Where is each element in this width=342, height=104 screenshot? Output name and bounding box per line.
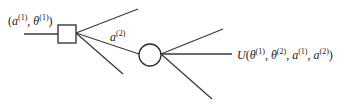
- utility-label: U(θ(1), θ(2), a(1), a(2)): [237, 48, 333, 61]
- var-U: U: [237, 48, 246, 62]
- decision-branch-upper: [76, 9, 138, 33]
- chance-node-circle: [139, 44, 161, 66]
- decision-branch-a2: [76, 33, 139, 54]
- input-label: (a(1), θ(1)): [8, 14, 53, 27]
- chance-branch-upper: [161, 29, 223, 54]
- decision-node-square: [58, 25, 76, 43]
- chance-branch-lower: [161, 54, 212, 99]
- superscript: (2): [277, 47, 286, 56]
- branch-label-a2: a(2): [110, 30, 125, 43]
- superscript: (2): [319, 47, 328, 56]
- paren: ): [49, 14, 53, 28]
- superscript: (1): [256, 47, 265, 56]
- superscript: (2): [116, 29, 125, 38]
- superscript: (1): [18, 13, 27, 22]
- superscript: (1): [39, 13, 48, 22]
- paren: ): [329, 48, 333, 62]
